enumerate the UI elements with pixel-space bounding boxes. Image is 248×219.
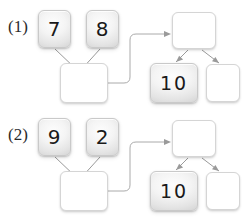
- diagram-root: (1) 7 8: [0, 0, 248, 219]
- edge-root-to-ten: [176, 158, 188, 170]
- node-r1-child-blank[interactable]: [206, 64, 240, 102]
- node-r1-leaf-b[interactable]: 8: [86, 10, 119, 48]
- node-r2-child-ten[interactable]: 10: [150, 171, 198, 211]
- row-label-1: (1): [8, 18, 38, 35]
- edge-root-to-blank-arrowhead: [212, 165, 219, 171]
- edge-root-to-ten: [176, 50, 188, 62]
- edge-parent-to-root-arrowhead: [164, 139, 171, 145]
- node-r1-root[interactable]: [172, 12, 216, 49]
- diagram-row-2: (2) 9 2 10: [0, 108, 248, 217]
- node-r2-leaf-b[interactable]: 2: [86, 118, 119, 156]
- edge-root-to-blank-arrowhead: [212, 57, 219, 63]
- node-r2-parent[interactable]: [60, 171, 108, 211]
- node-value: 10: [160, 73, 188, 94]
- node-value: 8: [96, 19, 110, 40]
- node-value: 7: [48, 19, 62, 40]
- edge-root-to-blank: [202, 50, 219, 63]
- node-r1-child-ten[interactable]: 10: [150, 63, 198, 103]
- edge-parent-to-root-arrowhead: [164, 31, 171, 37]
- node-r2-leaf-a[interactable]: 9: [38, 118, 71, 156]
- node-r2-root[interactable]: [172, 120, 216, 157]
- node-value: 10: [160, 181, 188, 202]
- node-r1-leaf-a[interactable]: 7: [38, 10, 71, 48]
- node-value: 2: [96, 127, 110, 148]
- node-value: 9: [48, 127, 62, 148]
- node-r2-child-blank[interactable]: [206, 172, 240, 210]
- row-label-2: (2): [8, 126, 38, 143]
- edge-root-to-ten-arrowhead: [176, 56, 183, 62]
- node-r1-parent[interactable]: [60, 63, 108, 103]
- edge-root-to-ten-arrowhead: [176, 164, 183, 170]
- edge-root-to-blank: [202, 158, 219, 171]
- diagram-row-1: (1) 7 8: [0, 0, 248, 109]
